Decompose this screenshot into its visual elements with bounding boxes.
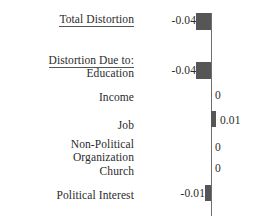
value-label-non-political-organization: 0 bbox=[215, 141, 221, 154]
category-label-text: Income bbox=[99, 91, 134, 103]
bar-political-interest bbox=[205, 185, 211, 201]
category-label-text: Non-Political bbox=[71, 138, 134, 150]
value-label-political-interest: -0.01 bbox=[181, 187, 205, 200]
category-label-text: Total Distortion bbox=[59, 13, 134, 25]
value-label-education: -0.04 bbox=[172, 64, 196, 77]
category-label-total-distortion: Total Distortion bbox=[59, 13, 134, 27]
category-label-text: Distortion Due to: bbox=[49, 54, 135, 66]
value-label-total-distortion: -0.04 bbox=[172, 14, 196, 27]
category-label-income: Income bbox=[99, 91, 134, 104]
category-label-text: Education bbox=[86, 67, 134, 79]
bar-education bbox=[196, 62, 211, 79]
category-label-text: Political Interest bbox=[57, 189, 135, 201]
category-label-political-interest: Political Interest bbox=[57, 189, 135, 202]
bar-job bbox=[211, 111, 216, 127]
value-label-church: 0 bbox=[215, 162, 221, 175]
category-label-text: Job bbox=[118, 119, 134, 131]
category-label-job: Job bbox=[118, 119, 134, 132]
bar-total-distortion bbox=[196, 13, 211, 30]
category-label-text-line2: Organization bbox=[71, 151, 134, 164]
category-label-non-political-organization: Non-PoliticalOrganization bbox=[71, 138, 134, 164]
category-label-distortion-due-to: Distortion Due to: bbox=[49, 54, 135, 68]
value-label-income: 0 bbox=[215, 89, 221, 102]
distortion-bar-chart: Total Distortion-0.04Distortion Due to:E… bbox=[0, 0, 267, 223]
category-label-education: Education bbox=[86, 67, 134, 80]
value-label-job: 0.01 bbox=[220, 114, 241, 127]
category-label-text: Church bbox=[100, 165, 134, 177]
category-label-church: Church bbox=[100, 165, 134, 178]
